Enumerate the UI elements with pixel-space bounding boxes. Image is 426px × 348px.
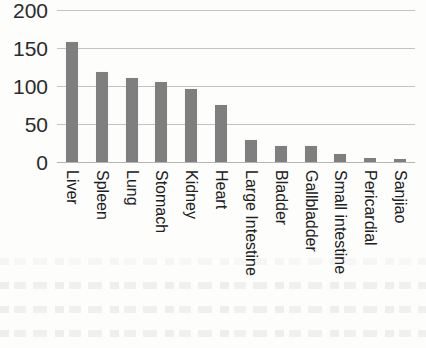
y-axis-tick-label: 100 <box>13 76 48 97</box>
bar-slot <box>176 10 206 162</box>
x-axis-tick-label-lung: Lung <box>124 170 140 206</box>
bar-large-intestine[interactable] <box>245 140 257 162</box>
bar-slot <box>325 10 355 162</box>
bar-slot <box>57 10 87 162</box>
bar-slot <box>206 10 236 162</box>
x-axis-tick-label-kidney: Kidney <box>183 170 199 219</box>
bar-bladder[interactable] <box>275 146 287 162</box>
bar-lung[interactable] <box>126 78 138 162</box>
x-label-slot: Sanjiao <box>385 166 415 341</box>
x-axis-tick-label-liver: Liver <box>64 170 80 205</box>
x-axis-tick-label-stomach: Stomach <box>153 170 169 233</box>
x-label-slot: Large Intestine <box>236 166 266 341</box>
x-label-slot: Liver <box>57 166 87 341</box>
x-label-slot: Kidney <box>176 166 206 341</box>
x-label-slot: Heart <box>206 166 236 341</box>
bar-chart-figure: 050100150200 LiverSpleenLungStomachKidne… <box>0 0 426 348</box>
bar-series <box>57 10 415 162</box>
x-axis-tick-label-gallbladder: Gallbladder <box>303 170 319 252</box>
bar-slot <box>355 10 385 162</box>
bar-kidney[interactable] <box>185 89 197 162</box>
bar-slot <box>146 10 176 162</box>
gridline-0 <box>57 162 415 163</box>
y-axis: 050100150200 <box>0 0 52 175</box>
y-axis-tick-label: 0 <box>36 152 48 173</box>
x-axis-tick-label-large-intestine: Large Intestine <box>243 170 259 276</box>
y-axis-tick-label: 50 <box>25 114 48 135</box>
x-axis-tick-label-spleen: Spleen <box>94 170 110 220</box>
y-axis-tick-label: 150 <box>13 38 48 59</box>
bar-spleen[interactable] <box>96 72 108 162</box>
x-label-slot: Spleen <box>87 166 117 341</box>
x-label-slot: Gallbladder <box>296 166 326 341</box>
bar-heart[interactable] <box>215 105 227 162</box>
x-label-slot: Pericardial <box>355 166 385 341</box>
x-axis-tick-label-heart: Heart <box>213 170 229 209</box>
x-axis: LiverSpleenLungStomachKidneyHeartLarge I… <box>57 166 415 341</box>
bar-stomach[interactable] <box>155 82 167 162</box>
x-axis-tick-label-sanjiao: Sanjiao <box>392 170 408 223</box>
bar-slot <box>296 10 326 162</box>
bar-small-intestine[interactable] <box>334 154 346 162</box>
bar-sanjiao[interactable] <box>394 159 406 162</box>
x-label-slot: Bladder <box>266 166 296 341</box>
plot-area <box>57 10 415 162</box>
y-axis-tick-label: 200 <box>13 0 48 21</box>
bar-slot <box>117 10 147 162</box>
x-label-slot: Stomach <box>146 166 176 341</box>
bar-gallbladder[interactable] <box>305 146 317 162</box>
x-axis-tick-label-small-intestine: Small intestine <box>332 170 348 274</box>
x-axis-tick-label-bladder: Bladder <box>273 170 289 225</box>
x-label-slot: Lung <box>117 166 147 341</box>
x-label-slot: Small intestine <box>325 166 355 341</box>
bar-pericardial[interactable] <box>364 158 376 162</box>
bar-slot <box>266 10 296 162</box>
bar-liver[interactable] <box>66 42 78 162</box>
bar-slot <box>385 10 415 162</box>
bar-slot <box>87 10 117 162</box>
bar-slot <box>236 10 266 162</box>
x-axis-tick-label-pericardial: Pericardial <box>362 170 378 246</box>
